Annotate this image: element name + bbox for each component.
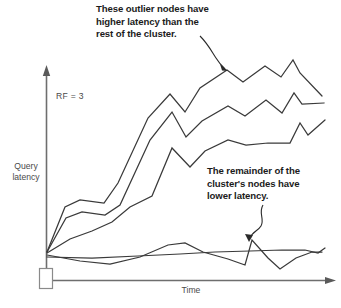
- annotation-remainder-text: The remainder of the cluster's nodes hav…: [207, 165, 331, 203]
- x-axis-label: Time: [163, 285, 219, 296]
- outlier-series-group: [47, 60, 325, 253]
- replication-factor-label: RF = 3: [56, 91, 84, 101]
- latency-line-chart: [0, 0, 341, 308]
- x-axis-arrowhead: [325, 277, 336, 284]
- annotation-leaders: [200, 36, 263, 242]
- leader-line-remainder: [250, 205, 263, 238]
- remainder-series-group: [47, 240, 325, 269]
- y-axis-arrowhead: [43, 65, 50, 76]
- series-cluster-node-2: [47, 248, 325, 258]
- series-outlier-node-1: [47, 60, 322, 252]
- leader-line-outliers: [200, 36, 225, 69]
- origin-marker-box: [40, 269, 53, 289]
- series-cluster-node-1: [47, 240, 322, 269]
- annotation-outliers-text: These outlier nodes have higher latency …: [96, 3, 226, 41]
- y-axis-label: Query latency: [4, 161, 48, 183]
